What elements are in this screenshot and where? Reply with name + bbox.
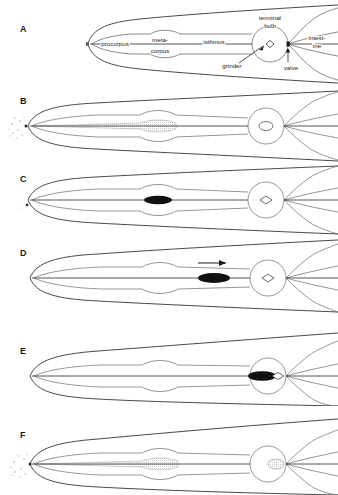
panel-d-drawing [0,238,338,316]
transport-direction-arrow [198,260,226,266]
metacorpus-wall-bottom [150,54,180,58]
intestine-bottom [288,44,338,80]
label-intestine-line2: ine [313,42,322,49]
body-outline-bottom [30,464,338,495]
stippled-grinder-contents [268,459,284,469]
label-terminal-bulb-line2: bulb [264,22,276,29]
metacorpus-wall-top [140,185,176,190]
intestine-inner-top [286,266,338,278]
panel-letter-a: A [20,24,27,34]
panel-d: D [0,238,338,316]
isthmus-wall-bottom [178,385,250,387]
panel-letter-f: F [20,430,26,440]
isthmus-wall-top [178,267,250,269]
intestine-top [286,430,338,464]
intestine-top [286,341,338,376]
metacorpus-wall-bottom [142,475,178,480]
valve-arrowhead [286,48,290,53]
body-outline-tip [87,42,89,45]
isthmus-wall-top [178,365,250,366]
body-outline-bottom [28,126,338,161]
procorpus-wall-bottom [34,278,142,289]
isthmus-wall-top [176,189,248,192]
intestine-bottom [284,126,338,160]
intestine-inner-top [286,452,338,464]
isthmus-wall-top [176,115,248,118]
panel-b-drawing [0,88,338,164]
mouth-particle-spray [8,116,27,138]
intestine-bottom [286,376,338,406]
isthmus-wall-bottom [176,208,248,211]
isthmus-wall-bottom [176,134,248,137]
panel-e: E [0,330,338,406]
metacorpus-wall-bottom [140,211,176,216]
intestine-inner-bottom [284,200,338,212]
grinder-shape [260,196,272,204]
body-outline-bottom [30,376,338,406]
isthmus-wall-bottom [178,473,250,475]
panel-b: B [0,88,338,164]
food-bolus-metacorpus [144,196,172,204]
body-outline-bottom [88,44,338,83]
body-outline-bottom [30,278,338,312]
intestine-inner-top [284,114,338,126]
procorpus-wall-top [32,189,140,200]
intestine-inner-bottom [286,376,338,388]
food-bolus-isthmus [198,273,230,283]
metacorpus-wall-top [150,30,180,34]
intestine-inner-bottom [286,464,338,476]
label-metacorpus-line1: meta- [152,36,168,43]
mouth-particle-spray [20,204,28,209]
metacorpus-wall-top [142,361,178,366]
metacorpus-wall-top [142,449,178,454]
body-outline-top [30,333,338,376]
intestine-inner-top [286,364,338,376]
body-outline-bottom [28,200,338,234]
label-grinder: grinder [222,62,241,69]
grinder-shape [262,274,274,282]
label-intestine-line1: intest- [309,34,326,41]
label-procorpus: procorpus [101,40,129,47]
valve-marker [287,42,290,47]
panel-a-drawing: procorpus meta- corpus isthmus terminal … [0,0,338,88]
label-metacorpus-line2: corpus [151,47,170,54]
intestine-top [284,92,338,126]
grinder-shape [259,122,273,131]
procorpus-wall-top [34,267,142,278]
figure-container: A [0,0,338,495]
grinder-leader-line [239,46,263,63]
label-isthmus: isthmus [203,38,224,45]
procorpus-wall-top [34,365,142,376]
metacorpus-wall-bottom [142,387,178,392]
grinder-shape [266,41,274,48]
metacorpus-wall-bottom [140,137,176,142]
panel-letter-c: C [20,174,27,184]
panel-letter-d: D [20,248,27,258]
isthmus-wall-bottom [178,287,250,289]
intestine-bottom [286,464,338,495]
isthmus-wall-top [178,453,250,455]
label-terminal-bulb-line1: terminal [259,14,281,21]
panel-f: F [0,414,338,495]
intestine-inner-bottom [286,278,338,290]
procorpus-wall-bottom [34,376,142,387]
panel-c: C [0,164,338,238]
intestine-top [284,166,338,200]
metacorpus-wall-top [140,111,176,116]
label-valve: valve [284,64,299,71]
body-outline-top [28,91,338,126]
body-outline-top [28,166,338,200]
intestine-inner-top [284,188,338,200]
procorpus-wall-bottom [32,200,140,211]
intestine-top [286,244,338,278]
intestine-bottom [286,278,338,312]
intestine-inner-bottom [284,126,338,138]
panel-c-drawing [0,164,338,238]
panel-e-drawing [0,330,338,406]
body-outline-top [30,419,338,464]
metacorpus-wall-bottom [142,289,178,294]
panel-f-drawing [0,414,338,495]
intestine-bottom [284,200,338,234]
metacorpus-wall-top [142,263,178,268]
panel-letter-e: E [20,346,26,356]
